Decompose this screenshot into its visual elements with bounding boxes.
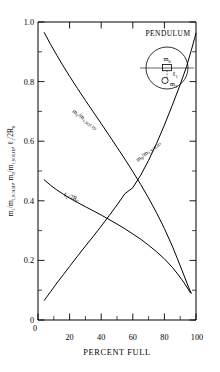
inset-pendulum: PENDULUM m0 ℓ1 m1	[140, 29, 194, 89]
y-tick-label: 0.4	[24, 197, 34, 206]
x-axis-title: PERCENT FULL	[83, 348, 150, 357]
inset-label-length: ℓ1	[173, 70, 178, 79]
y-axis-title: m1/m1,SOLID, m0/m1,SOLID, ℓ1/2R0	[6, 126, 17, 217]
inset-label-m0: m0	[163, 55, 170, 64]
curve-label-length-ratio: ℓ1/2R0	[62, 190, 80, 204]
x-axis-ticks	[38, 22, 196, 320]
x-tick-labels: 0 20 40 60 80 100	[33, 324, 203, 342]
x-tick-label: 0	[33, 324, 37, 333]
x-tick-label: 80	[160, 333, 168, 342]
x-tick-label: 20	[66, 333, 74, 342]
x-tick-label: 60	[129, 333, 137, 342]
svg-text:ℓ1/2R0: ℓ1/2R0	[62, 190, 80, 204]
y-tick-label: 0.8	[24, 78, 34, 87]
svg-text:m1/m1,SOLID: m1/m1,SOLID	[70, 107, 99, 132]
y-tick-label: 1.0	[24, 18, 34, 27]
y-tick-label: 0.6	[24, 137, 34, 146]
chart-canvas: 0 0.2 0.4 0.6 0.8 1.0 0 20 40 60 80 100 …	[0, 0, 220, 372]
plot-frame	[38, 22, 196, 320]
svg-text:m1/m1,SOLID, m0/m1,SOLID, ℓ1/2: m1/m1,SOLID, m0/m1,SOLID, ℓ1/2R0	[6, 126, 17, 217]
inset-title: PENDULUM	[145, 29, 190, 38]
x-tick-label: 100	[191, 333, 203, 342]
curve-label-m1-ratio: m1/m1,SOLID	[70, 107, 99, 132]
y-tick-label: 0.2	[24, 256, 34, 265]
series-line-m1-ratio	[44, 33, 191, 294]
x-tick-label: 40	[97, 333, 105, 342]
figure: 0 0.2 0.4 0.6 0.8 1.0 0 20 40 60 80 100 …	[0, 0, 220, 372]
y-tick-labels: 0 0.2 0.4 0.6 0.8 1.0	[24, 18, 34, 325]
inset-label-m1: m1	[170, 80, 177, 89]
y-axis-ticks	[38, 22, 196, 320]
